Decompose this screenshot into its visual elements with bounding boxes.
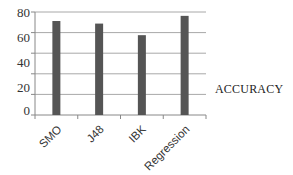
y-tick-label: 80 bbox=[0, 6, 30, 19]
y-tick-label: 0 bbox=[0, 104, 30, 117]
bar bbox=[138, 35, 146, 115]
accuracy-bar-chart: 80 60 40 20 0 SMO J48 IBK Regression ACC… bbox=[0, 0, 293, 175]
y-tick-label: 60 bbox=[0, 31, 30, 44]
bar bbox=[95, 24, 103, 115]
legend-label: ACCURACY bbox=[215, 82, 283, 97]
bar bbox=[52, 21, 60, 115]
y-tick-label: 20 bbox=[0, 81, 30, 94]
bar bbox=[181, 16, 189, 115]
y-tick-label: 40 bbox=[0, 56, 30, 69]
